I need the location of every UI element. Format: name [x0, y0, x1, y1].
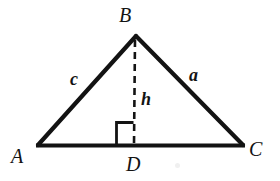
altitude-label-h: h — [141, 90, 151, 108]
right-angle-marker — [117, 123, 134, 145]
geometry-figure: B A C D c a h — [0, 0, 280, 181]
side-label-c: c — [70, 70, 78, 88]
scan-artifact-speck — [175, 163, 180, 168]
vertex-label-c: C — [249, 139, 262, 159]
side-a-line — [136, 36, 243, 145]
vertex-label-a: A — [11, 146, 23, 166]
vertex-label-b: B — [119, 5, 131, 25]
altitude-h-dashed-line — [134, 40, 135, 145]
side-c-line — [38, 36, 136, 145]
vertex-label-d: D — [126, 154, 140, 174]
side-label-a: a — [189, 66, 198, 84]
